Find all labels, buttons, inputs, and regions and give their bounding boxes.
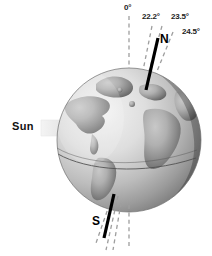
north-pole-label: N xyxy=(160,32,169,46)
angle-label-23-5deg: 23.5° xyxy=(171,12,189,21)
south-pole-label: S xyxy=(92,214,100,228)
angle-label-22-2deg: 22.2° xyxy=(142,12,160,21)
angle-label-24-5deg: 24.5° xyxy=(182,27,200,36)
earth-globe xyxy=(56,68,204,214)
figure-canvas: 0° 22.2° 23.5° 24.5° N S Sun xyxy=(0,0,212,256)
angle-label-0deg: 0° xyxy=(124,3,131,12)
sun-label: Sun xyxy=(12,120,34,132)
